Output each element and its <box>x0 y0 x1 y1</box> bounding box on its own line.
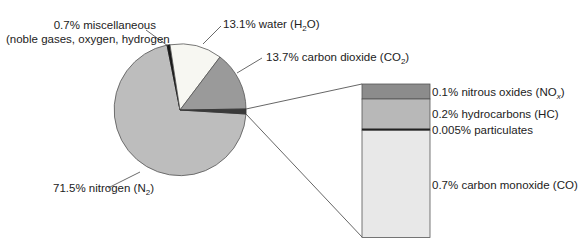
label-miscellaneous: 0.7% miscellaneous (noble gases, oxygen,… <box>6 18 156 46</box>
label-carbon-dioxide: 13.7% carbon dioxide (CO2) <box>266 50 409 64</box>
bar-segment-hydrocarbons <box>362 99 430 129</box>
bar-segment-carbon-monoxide <box>362 131 430 238</box>
label-nitrogen: 71.5% nitrogen (N2) <box>53 181 154 195</box>
zoom-connector-top <box>246 84 362 109</box>
label-misc-line2: (noble gases, oxygen, hydrogen <box>6 32 156 46</box>
label-particulates: 0.005% particulates <box>432 123 533 137</box>
leader-co2 <box>237 58 262 73</box>
bar-segment-nitrous-oxides <box>362 84 430 99</box>
leader-water <box>203 26 221 44</box>
label-carbon-monoxide: 0.7% carbon monoxide (CO) <box>432 178 578 192</box>
label-nitrous-oxides: 0.1% nitrous oxides (NOx) <box>432 85 564 99</box>
label-water: 13.1% water (H2O) <box>223 17 320 31</box>
zoom-connector-bottom <box>246 114 362 237</box>
label-misc-line1: 0.7% miscellaneous <box>6 18 156 32</box>
label-hydrocarbons: 0.2% hydrocarbons (HC) <box>432 107 559 121</box>
